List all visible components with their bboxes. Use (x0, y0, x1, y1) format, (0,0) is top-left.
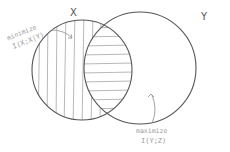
venn-diagram: X Y minimize I(X;X|Y) maximize I(Y;Z) (0, 0, 230, 152)
set-x-label: X (70, 7, 77, 18)
maximize-arrowhead (148, 94, 154, 97)
minimize-arrow (52, 30, 72, 38)
x-only-hatch (38, 10, 110, 130)
set-y-label: Y (200, 11, 208, 22)
maximize-label: maximize (136, 127, 167, 135)
maximize-arrow (152, 95, 155, 123)
maximize-expression: I(Y;Z) (141, 137, 166, 145)
venn-svg: X Y minimize I(X;X|Y) maximize I(Y;Z) (0, 0, 230, 152)
intersection-hatch (80, 27, 135, 109)
